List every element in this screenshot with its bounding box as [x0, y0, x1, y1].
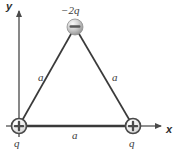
physics-diagram-figure: y x −2q q q a a a	[0, 0, 178, 157]
x-axis-label: x	[166, 124, 172, 135]
minus-sign-icon	[70, 25, 81, 28]
triangle-side-right	[75, 27, 133, 126]
side-length-label-right: a	[112, 72, 118, 83]
plus-vertical-bar-right	[132, 121, 134, 131]
charge-label-top: −2q	[61, 5, 79, 16]
side-length-label-left: a	[38, 72, 44, 83]
charge-label-bottom-left: q	[14, 138, 20, 149]
charge-top-negative-sphere	[67, 19, 83, 35]
charge-bottom-right-positive	[126, 119, 141, 134]
y-axis-label: y	[6, 1, 12, 12]
diagram-canvas	[0, 0, 178, 157]
plus-vertical-bar-left	[18, 121, 20, 131]
charge-label-bottom-right: q	[129, 138, 135, 149]
charge-bottom-left-positive	[12, 119, 27, 134]
triangle-side-left	[19, 27, 75, 126]
side-length-label-base: a	[72, 130, 78, 141]
